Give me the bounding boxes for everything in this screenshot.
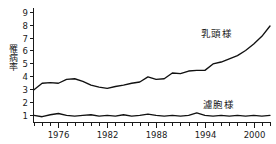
x-tick-label: 1994 xyxy=(195,130,217,140)
incidence-rate-line-chart: 罹病率 123456789 19761982198819942000 乳頭様 濾… xyxy=(0,0,276,144)
x-tick-label: 1976 xyxy=(48,130,70,140)
x-tick-label: 1988 xyxy=(146,130,168,140)
x-tick-label: 1982 xyxy=(97,130,119,140)
series-line-papillary xyxy=(34,26,270,90)
x-tick-group: 19761982198819942000 xyxy=(48,123,266,141)
y-tick-label: 6 xyxy=(23,46,28,56)
chart-plot-area: 123456789 19761982198819942000 xyxy=(0,0,276,144)
series-line-follicular xyxy=(34,113,270,117)
y-tick-label: 1 xyxy=(23,111,28,121)
y-tick-label: 7 xyxy=(23,34,28,44)
y-axis: 123456789 xyxy=(23,8,34,123)
y-tick-label: 9 xyxy=(23,8,28,18)
y-tick-label: 2 xyxy=(23,98,28,108)
x-minor-tick-group xyxy=(35,123,271,127)
y-tick-label: 5 xyxy=(23,59,28,69)
series-label-follicular: 濾胞様 xyxy=(203,97,234,111)
series-label-papillary: 乳頭様 xyxy=(201,26,232,40)
y-tick-label: 3 xyxy=(23,85,28,95)
y-tick-label: 4 xyxy=(23,72,28,82)
x-axis: 19761982198819942000 xyxy=(34,123,272,141)
series-group xyxy=(34,26,270,117)
x-tick-label: 2000 xyxy=(244,130,266,140)
y-tick-group: 123456789 xyxy=(23,8,34,121)
y-tick-label: 8 xyxy=(23,21,28,31)
